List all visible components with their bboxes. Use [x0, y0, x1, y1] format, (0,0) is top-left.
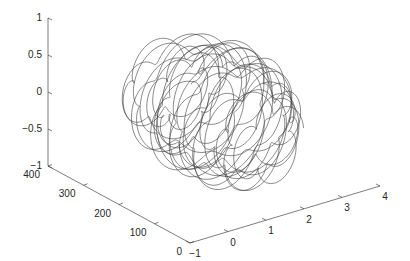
- z-tick-label: 0.5: [28, 49, 42, 60]
- x-tick-label: 2: [306, 214, 312, 225]
- x-tick: [224, 230, 228, 232]
- z-tick: [48, 55, 52, 57]
- z-tick: [48, 18, 52, 20]
- y-tick: [84, 184, 88, 186]
- x-tick: [262, 218, 266, 220]
- data-curve: [122, 34, 303, 191]
- y-tick: [48, 165, 52, 167]
- z-tick: [48, 92, 52, 94]
- z-tick: [48, 166, 52, 168]
- x-tick-label: −1: [189, 248, 201, 259]
- x-tick-label: 1: [268, 225, 274, 236]
- x-tick: [338, 195, 342, 197]
- y-tick-label: 200: [94, 208, 111, 219]
- z-tick-label: 0: [36, 86, 42, 97]
- y-tick-label: 100: [130, 227, 147, 238]
- x-axis-line: [190, 186, 380, 243]
- x-tick: [376, 184, 380, 186]
- x-axis-ticks: −101234: [186, 184, 388, 259]
- z-tick-label: −0.5: [22, 123, 42, 134]
- x-tick-label: 0: [230, 237, 236, 248]
- z-tick-label: 1: [36, 12, 42, 23]
- y-tick: [155, 222, 159, 224]
- x-tick-label: 3: [344, 202, 350, 213]
- y-tick-label: 300: [59, 188, 76, 199]
- z-axis-ticks: −1−0.500.51: [22, 12, 52, 171]
- plot-3d: −1−0.500.51 0100200300400 −101234: [0, 0, 410, 261]
- x-tick-label: 4: [382, 191, 388, 202]
- x-tick: [186, 241, 190, 243]
- y-tick: [119, 203, 123, 205]
- z-tick: [48, 129, 52, 131]
- y-tick-label: 400: [23, 169, 40, 180]
- x-tick: [300, 207, 304, 209]
- y-axis-ticks: 0100200300400: [23, 165, 194, 258]
- y-tick-label: 0: [176, 246, 182, 257]
